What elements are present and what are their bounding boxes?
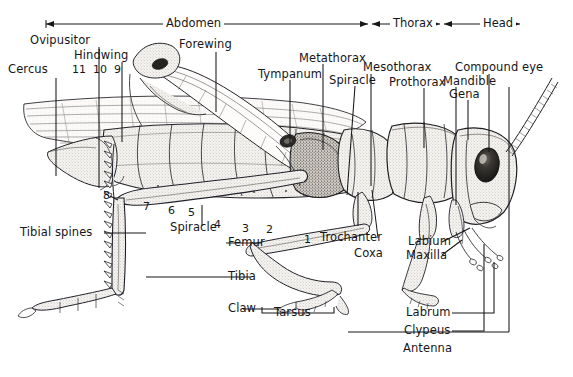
segment-number-5: 5 [188, 207, 195, 218]
label-tympanum: Tympanum [258, 69, 322, 81]
label-tibia: Tibia [228, 271, 256, 283]
segment-number-8: 8 [103, 190, 110, 201]
span-label-abdomen: Abdomen [163, 18, 224, 30]
span-label-thorax: Thorax [390, 18, 436, 30]
leader-labrum [452, 262, 494, 313]
label-prothorax: Prothorax [389, 77, 446, 89]
label-metathorax: Metathorax [299, 53, 366, 65]
label-hindwing: Hindwing [74, 50, 128, 62]
label-ovipositor: Ovipusitor [30, 35, 90, 47]
leader-clypeus [452, 244, 484, 331]
label-coxa: Coxa [354, 248, 383, 260]
anatomy-figure: Abdomen Thorax Head Ovipusitor Hindwing … [0, 0, 573, 377]
span-label-head: Head [480, 18, 516, 30]
label-spiracle-thorax: Spiracle [329, 75, 376, 87]
segment-number-7: 7 [143, 201, 150, 212]
segment-number-4: 4 [214, 219, 221, 230]
label-tarsus: Tarsus [274, 307, 311, 319]
label-clypeus: Clypeus [404, 325, 450, 337]
label-cercus: Cercus [8, 64, 48, 76]
label-claw: Claw [228, 303, 256, 315]
label-tibial-spines: Tibial spines [20, 227, 92, 239]
leader-spiracle-thorax [347, 86, 355, 195]
label-maxilla: Maxilla [406, 250, 447, 262]
label-femur: Femur [228, 237, 265, 249]
segment-number-1: 1 [304, 234, 311, 245]
label-labrum: Labrum [406, 307, 451, 319]
label-spiracle-abdomen: Spiracle [170, 222, 217, 234]
label-antenna: Antenna [403, 343, 452, 355]
segment-number-9: 9 [114, 64, 121, 75]
label-labium: Labium [408, 236, 451, 248]
label-gena: Gena [449, 89, 480, 101]
label-mesothorax: Mesothorax [363, 62, 431, 74]
label-mandible: Mandible [443, 76, 496, 88]
label-forewing: Forewing [179, 39, 232, 51]
segment-number-3: 3 [242, 223, 249, 234]
segment-number-11: 11 [72, 64, 86, 75]
leader-segment-8 [110, 196, 118, 200]
segment-number-2: 2 [266, 224, 273, 235]
segment-number-6: 6 [168, 205, 175, 216]
segment-number-10: 10 [93, 64, 107, 75]
label-trochanter: Trochanter [320, 232, 382, 244]
label-compound-eye: Compound eye [455, 62, 543, 74]
